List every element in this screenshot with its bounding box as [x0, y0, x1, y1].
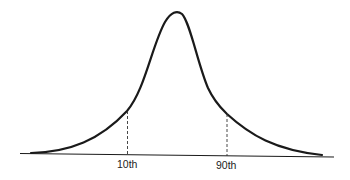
distribution-curve [31, 12, 322, 155]
x-axis [20, 154, 334, 158]
distribution-chart: 10th 90th [0, 0, 350, 180]
p10-label: 10th [117, 158, 138, 170]
p90-label: 90th [216, 159, 237, 171]
